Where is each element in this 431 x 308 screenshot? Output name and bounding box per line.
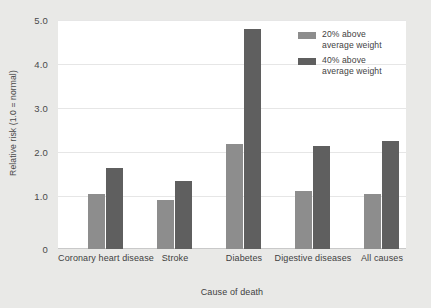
- y-tick-label-3: 3.0: [34, 103, 48, 114]
- bar-coronary-heart-disease-20pct: [88, 194, 105, 249]
- bar-digestive-diseases-20pct: [295, 191, 312, 249]
- legend-label-20pct: 20% above average weight: [322, 29, 382, 50]
- x-axis: Coronary heart disease Stroke Diabetes D…: [58, 253, 406, 283]
- bar-digestive-diseases-40pct: [313, 146, 330, 249]
- legend-item-20pct: 20% above average weight: [298, 29, 382, 50]
- bar-group-1: [157, 20, 192, 249]
- x-axis-title: Cause of death: [58, 287, 406, 297]
- legend-item-40pct: 40% above average weight: [298, 55, 382, 76]
- chart-figure: 5.0 4.0 3.0 2.0 1.0 0 Relative risk (1.0…: [0, 0, 431, 308]
- bar-all-causes-40pct: [382, 141, 399, 249]
- y-tick-label-4: 4.0: [34, 59, 48, 70]
- legend-swatch-40pct: [298, 58, 316, 65]
- legend-label-40pct: 40% above average weight: [322, 55, 382, 76]
- y-tick-label-5: 5.0: [34, 15, 48, 26]
- bar-stroke-40pct: [175, 181, 192, 249]
- legend-swatch-20pct: [298, 32, 316, 39]
- bar-all-causes-20pct: [364, 194, 381, 249]
- y-tick-label-1: 1.0: [34, 191, 48, 202]
- bar-stroke-20pct: [157, 200, 174, 249]
- bar-diabetes-20pct: [226, 144, 243, 249]
- y-tick-label-2: 2.0: [34, 147, 48, 158]
- y-axis-title: Relative risk (1.0 = normal): [8, 33, 18, 213]
- bar-coronary-heart-disease-40pct: [106, 168, 123, 249]
- bar-group-2: [226, 20, 261, 249]
- legend: 20% above average weight 40% above avera…: [298, 29, 382, 81]
- x-tick-label-all-causes: All causes: [332, 253, 431, 265]
- bar-diabetes-40pct: [244, 29, 261, 249]
- bar-group-0: [88, 20, 123, 249]
- y-tick-label-0: 0: [43, 244, 48, 255]
